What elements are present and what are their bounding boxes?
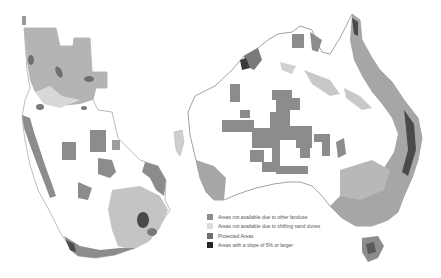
- landuse-block: [250, 150, 264, 162]
- legend-swatch: [207, 214, 213, 220]
- legend-item-sand-dunes: Areas not available due to shifting sand…: [207, 222, 357, 231]
- legend-swatch: [207, 223, 213, 229]
- landuse-block: [222, 120, 254, 132]
- protected-area: [28, 55, 34, 65]
- legend-swatch: [207, 233, 213, 239]
- legend-item-slope: Areas with a slope of 5% or larger: [207, 241, 357, 250]
- landuse-block: [90, 130, 106, 152]
- landuse-block: [230, 84, 240, 102]
- map-figure: Areas not available due to other landuse…: [0, 0, 441, 278]
- protected-area: [36, 104, 44, 110]
- landuse-block: [112, 140, 120, 150]
- landuse-block: [292, 34, 304, 48]
- legend-label: Areas not available due to shifting sand…: [218, 223, 320, 229]
- map-legend: Areas not available due to other landuse…: [207, 212, 357, 250]
- legend-label: Areas not available due to other landuse: [218, 214, 308, 220]
- legend-item-protected-areas: Protected Areas: [207, 231, 357, 240]
- slope-area: [137, 212, 149, 228]
- landuse-block: [62, 142, 76, 160]
- landuse-block: [240, 110, 250, 118]
- legend-label: Areas with a slope of 5% or larger: [218, 242, 293, 248]
- protected-area: [81, 106, 87, 110]
- madagascar-edge: [174, 130, 184, 156]
- enclave: [22, 16, 26, 25]
- legend-label: Protected Areas: [218, 233, 254, 239]
- protected-area: [147, 228, 157, 236]
- landuse-block: [300, 146, 310, 158]
- protected-area: [84, 76, 94, 82]
- landuse-block: [276, 166, 308, 174]
- legend-swatch: [207, 242, 213, 248]
- legend-item-other-landuse: Areas not available due to other landuse: [207, 212, 357, 221]
